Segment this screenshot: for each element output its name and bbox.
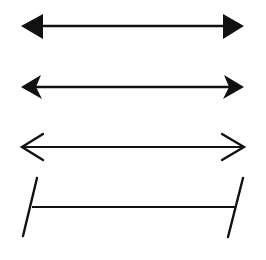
arrow-1-right-head-icon [223,14,244,39]
arrow-1-left-head-icon [21,14,43,39]
line-segment-slanted-end-bars [23,178,243,237]
double-arrow-solid-triangle-heads [21,14,244,39]
diagram-svg [0,0,266,260]
double-arrow-open-heads [22,134,244,160]
arrow-diagram [0,0,266,260]
double-arrow-notched-heads [21,75,244,99]
